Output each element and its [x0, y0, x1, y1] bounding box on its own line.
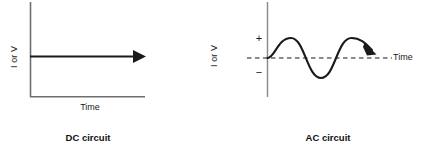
panel-ac-circuit: I or V + − Time AC circuit	[213, 0, 426, 156]
ac-y-axis-label: I or V	[209, 36, 219, 76]
ac-positive-symbol: +	[254, 33, 264, 44]
dc-panel-caption: DC circuit	[48, 132, 128, 143]
figure-dc-vs-ac-circuit: I or V Time DC circuit I or V + − Time A…	[0, 0, 426, 156]
panel-dc-circuit: I or V Time DC circuit	[0, 0, 213, 156]
ac-negative-symbol: −	[254, 67, 264, 78]
dc-x-axis-label: Time	[70, 102, 110, 112]
ac-x-axis-label: Time	[393, 52, 413, 62]
dc-signal-arrowhead-icon	[133, 50, 146, 63]
ac-signal-arrowhead-icon	[363, 43, 377, 56]
dc-y-axis-label: I or V	[9, 37, 19, 77]
ac-panel-caption: AC circuit	[288, 132, 368, 143]
